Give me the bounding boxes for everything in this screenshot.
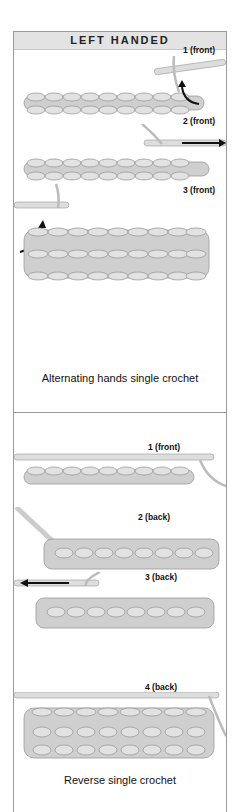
left-handed-panel: LEFT HANDED 1 (front) 2 (front) xyxy=(13,31,227,812)
illustration-step-1-front xyxy=(14,52,226,122)
crochet-chain-row xyxy=(24,93,204,114)
section-divider xyxy=(14,412,226,413)
caption-reverse: Reverse single crochet xyxy=(14,774,226,786)
step-label: 4 (back) xyxy=(145,682,177,692)
illustration-rsc-step-3 xyxy=(14,572,226,652)
illustration-step-3-front xyxy=(14,182,226,292)
illustration-rsc-step-1 xyxy=(14,450,226,515)
caption-alternating: Alternating hands single crochet xyxy=(14,372,226,384)
illustration-rsc-step-2 xyxy=(14,507,226,582)
illustration-rsc-step-4 xyxy=(14,692,226,764)
